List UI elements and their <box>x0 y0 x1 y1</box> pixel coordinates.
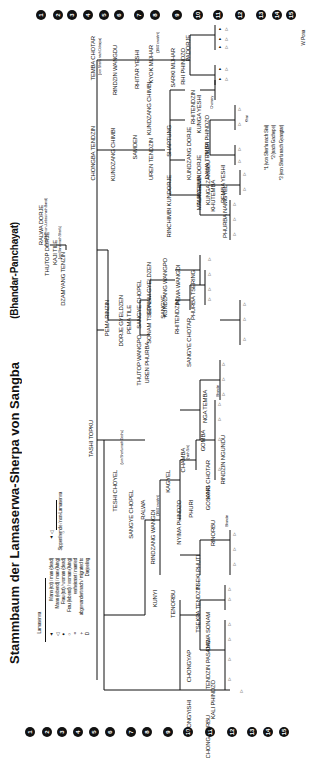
svg-text:△: △ <box>233 201 237 206</box>
person-note: (von Sherfu nach Gechu) <box>120 430 124 465</box>
person-name: DAWA SONAM <box>205 612 211 651</box>
svg-text:▲: ▲ <box>218 66 222 71</box>
svg-text:△: △ <box>208 296 212 301</box>
person-name: GOSANG CHOTAR <box>205 460 211 510</box>
person-name: SANGYE CHOTAR <box>186 318 192 367</box>
svg-text:△: △ <box>228 586 232 591</box>
person-name: UREN TENDZIN <box>148 138 154 180</box>
svg-text:▲: ▲ <box>218 36 222 41</box>
person-name: RINDZIN WANGDU <box>112 45 118 95</box>
svg-text:△: △ <box>222 391 226 396</box>
person-name: TSEKPA TENDZIN <box>195 585 201 633</box>
person-name: PHURBA TSERING <box>190 270 196 320</box>
person-name: KUNDZANG CHIMBI <box>110 128 116 181</box>
person-name: NGA TEMBA <box>202 390 208 423</box>
person-name: KUNYI <box>152 590 158 607</box>
svg-text:△: △ <box>222 376 226 381</box>
person-name: TESHI CHOYEL <box>112 470 118 512</box>
svg-text:△: △ <box>228 656 232 661</box>
person-name: KYOK MIJHAR <box>148 45 154 83</box>
person-name: GOMBA <box>200 430 206 451</box>
svg-text:△: △ <box>218 416 222 421</box>
person-name: UREN PHURBA <box>144 342 150 383</box>
svg-text:△: △ <box>243 186 247 191</box>
person-name: TASHI TOPKU <box>88 420 94 457</box>
svg-text:△: △ <box>238 146 242 151</box>
person-note: (1847 erwähnt) <box>156 495 160 516</box>
person-name: SAMDEN <box>132 135 138 159</box>
person-name: PHURBA NAMGYEL <box>222 185 228 238</box>
place-label: Khari <box>245 115 249 122</box>
svg-text:△: △ <box>222 361 226 366</box>
person-name: KUNDZANG DORJE <box>186 127 192 180</box>
svg-text:△: △ <box>238 121 242 126</box>
place-label: Chomery <box>210 96 214 109</box>
person-note: (nach Sini) <box>186 445 190 460</box>
person-name: DZAMYANG TENZIN <box>60 252 66 306</box>
person-name: CHONGYISHI <box>186 700 192 736</box>
svg-text:△: △ <box>233 531 237 536</box>
svg-text:△: △ <box>208 286 212 291</box>
svg-text:△: △ <box>225 76 229 81</box>
person-name: TEMBA CHOTAR <box>90 36 96 81</box>
svg-text:△: △ <box>233 546 237 551</box>
person-name: THUTOP WANGPO <box>136 335 142 386</box>
svg-text:△: △ <box>233 561 237 566</box>
place-label: Bhandar <box>225 515 229 527</box>
svg-text:△: △ <box>208 271 212 276</box>
svg-text:△: △ <box>228 676 232 681</box>
person-name: CHONGBA TENDZIN <box>90 126 96 181</box>
svg-text:△: △ <box>238 158 242 163</box>
svg-text:△: △ <box>238 106 242 111</box>
svg-text:△: △ <box>228 636 232 641</box>
person-name: PADORJE <box>185 35 191 62</box>
svg-text:▲: ▲ <box>218 44 222 49</box>
place-label: Bhandar <box>216 385 220 397</box>
person-name: RINDZANG WANGDI <box>150 510 156 564</box>
person-name: RINCHIMBI KUNDORJE <box>166 175 172 237</box>
person-name: KHUTEMBA <box>210 180 216 212</box>
person-name: RALWA <box>140 500 146 520</box>
person-name: SARKI MIJHAR <box>170 48 176 88</box>
person-note: (von Sherfu nach Dokarpa) <box>98 38 102 75</box>
svg-text:△: △ <box>243 301 247 306</box>
svg-text:△: △ <box>233 216 237 221</box>
svg-text:△: △ <box>228 596 232 601</box>
person-name: DORJE GYELDZEN <box>118 295 124 347</box>
svg-text:△: △ <box>243 316 247 321</box>
person-name: PHURI <box>188 500 194 518</box>
person-name: MALKYELMA DORJE <box>196 155 202 210</box>
svg-text:△: △ <box>225 26 229 31</box>
svg-text:△: △ <box>225 66 229 71</box>
person-name: THUTOP DORJE <box>44 232 50 276</box>
person-name: PEMA RINZIN <box>104 300 110 336</box>
svg-text:△: △ <box>233 231 237 236</box>
person-name: TSEKI PHUTI <box>195 555 201 590</box>
person-name: TENORBU <box>170 590 176 618</box>
person-name: RINORBU <box>210 520 216 546</box>
person-note: (1847 erwähnt) <box>156 32 160 53</box>
svg-text:△: △ <box>208 256 212 261</box>
person-name: RINDZIN NGUNDU <box>220 435 226 485</box>
person-name: CHONGYAP <box>186 650 192 682</box>
person-name: CHONG NORBU <box>205 715 211 758</box>
person-name: SANGYE CHOPEL <box>136 280 142 329</box>
person-name: KALI PHINDZO <box>210 680 216 719</box>
person-name: SANGYE CHOPEL <box>128 490 134 539</box>
svg-text:▲: ▲ <box>218 76 222 81</box>
person-name: KUNDZANG WANGPO <box>162 258 168 317</box>
svg-text:△: △ <box>228 621 232 626</box>
person-name: KUNGA YESHI <box>196 95 202 133</box>
svg-text:△: △ <box>225 36 229 41</box>
svg-text:△: △ <box>225 44 229 49</box>
person-name: SHAPTUNG <box>166 125 172 157</box>
person-name: KUNDZANG CHIMBI <box>146 82 152 135</box>
person-name: SONAM GYELDZEN <box>146 262 152 315</box>
svg-text:△: △ <box>243 336 247 341</box>
person-name: KAGYEL <box>165 470 171 493</box>
svg-text:△: △ <box>218 401 222 406</box>
person-name: PEMA TILE <box>126 305 132 334</box>
svg-text:▲: ▲ <box>218 26 222 31</box>
svg-text:△: △ <box>240 688 244 693</box>
